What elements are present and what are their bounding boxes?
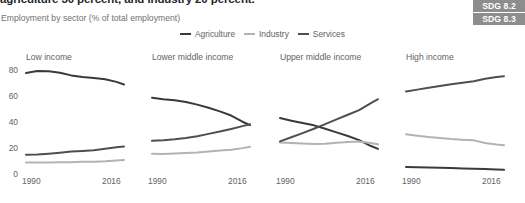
status-badge: SDG 8.2: [473, 0, 525, 12]
legend-label: Services: [313, 29, 345, 39]
x-axis-tick-start: 1990: [22, 176, 41, 186]
page-title: agriculture 30 percent, and industry 20 …: [0, 0, 255, 5]
legend-item-services: Services: [298, 29, 345, 39]
series-line-services: [26, 147, 124, 155]
series-line-industry: [152, 147, 250, 154]
series-line-industry: [280, 141, 378, 144]
x-axis-tick-start: 1990: [276, 176, 295, 186]
legend-label: Agriculture: [195, 29, 235, 39]
x-axis-tick-start: 1990: [402, 176, 421, 186]
x-axis-tick-end: 2016: [102, 176, 121, 186]
y-axis-tick: 20: [2, 143, 18, 153]
y-axis-tick: 40: [2, 117, 18, 127]
sdg-badge-group: SDG 8.2 SDG 8.3: [473, 0, 525, 25]
plot-area-lower-middle-income: [152, 64, 250, 174]
legend-label: Industry: [259, 29, 289, 39]
series-line-industry: [406, 134, 504, 145]
plot-area-low-income: [26, 64, 124, 174]
chart-subtitle: Employment by sector (% of total employm…: [1, 13, 180, 23]
series-line-services: [152, 124, 250, 141]
panel-title: Lower middle income: [152, 52, 233, 62]
y-axis-tick: 60: [2, 91, 18, 101]
x-axis-tick-start: 1990: [148, 176, 167, 186]
y-axis-tick: 80: [2, 65, 18, 75]
panel-title: High income: [406, 52, 454, 62]
x-axis-tick-end: 2016: [356, 176, 375, 186]
legend-item-agriculture: Agriculture: [180, 29, 235, 39]
series-line-agriculture: [26, 71, 124, 84]
status-badge: SDG 8.3: [473, 13, 525, 25]
chart-panel-upper-middle-income: Upper middle income 1990 2016: [264, 48, 394, 203]
chart-panel-grid: Low income 1990 2016 806040200 Lower mid…: [0, 48, 525, 203]
series-line-industry: [26, 160, 124, 163]
chart-panel-low-income: Low income 1990 2016 806040200: [0, 48, 132, 203]
plot-area-upper-middle-income: [280, 64, 378, 174]
panel-title: Upper middle income: [280, 52, 361, 62]
chart-panel-lower-middle-income: Lower middle income 1990 2016: [134, 48, 264, 203]
x-axis-tick-end: 2016: [482, 176, 501, 186]
legend-item-industry: Industry: [244, 29, 289, 39]
chart-legend: Agriculture Industry Services: [0, 29, 525, 39]
series-line-agriculture: [406, 167, 504, 170]
y-axis-tick: 0: [2, 169, 18, 179]
series-line-services: [406, 76, 504, 91]
plot-area-high-income: [406, 64, 504, 174]
legend-swatch-icon: [298, 33, 309, 36]
series-line-agriculture: [152, 98, 250, 125]
chart-panel-high-income: High income 1990 2016: [394, 48, 525, 203]
x-axis-tick-end: 2016: [228, 176, 247, 186]
legend-swatch-icon: [244, 33, 255, 36]
series-line-services: [280, 99, 378, 141]
panel-title: Low income: [26, 52, 72, 62]
legend-swatch-icon: [180, 33, 191, 36]
